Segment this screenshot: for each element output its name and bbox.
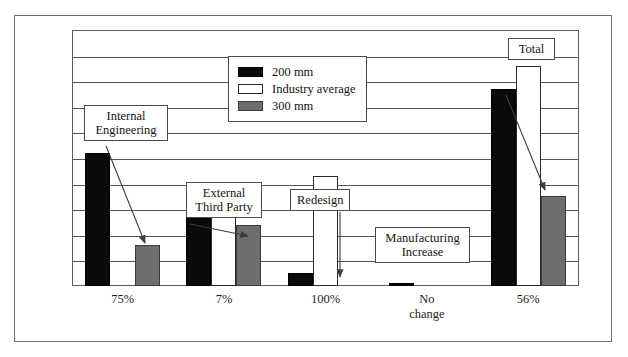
x-tick-label: No change [376, 292, 477, 322]
legend-item-industry-average: Industry average [238, 81, 358, 97]
legend-item-300mm: 300 mm [238, 98, 358, 114]
white-swatch-icon [238, 84, 263, 94]
gray-swatch-icon [238, 101, 263, 111]
legend-item-200mm: 200 mm [238, 64, 358, 80]
x-axis-tick-labels: 75%7%100%No change56% [72, 292, 579, 340]
bar-200-mm-75% [85, 153, 110, 286]
bar-300-mm-7% [236, 225, 261, 286]
x-tick-label: 75% [72, 292, 173, 307]
black-swatch-icon [238, 67, 263, 77]
chart-figure: 75%7%100%No change56% 200 mm Industry av… [0, 0, 628, 357]
chart-legend: 200 mm Industry average 300 mm [228, 56, 367, 122]
bar-industry-average-7% [211, 207, 236, 286]
legend-label-200mm: 200 mm [272, 65, 313, 80]
bar-200-mm-56% [491, 89, 516, 286]
x-tick-label: 7% [173, 292, 274, 307]
bar-200-mm-7% [186, 217, 211, 286]
bar-group [72, 30, 173, 286]
callout-external-third-party: External Third Party [186, 182, 262, 218]
legend-label-300mm: 300 mm [272, 99, 313, 114]
bar-300-mm-75% [135, 245, 160, 286]
callout-total: Total [508, 38, 555, 60]
bar-group [478, 30, 579, 286]
callout-internal-engineering: Internal Engineering [84, 105, 168, 141]
bar-200-mm-100% [288, 273, 313, 286]
x-tick-label: 100% [275, 292, 376, 307]
bar-200-mm-No-change [389, 283, 414, 286]
bar-industry-average-56% [516, 66, 541, 286]
callout-manufacturing-increase: Manufacturing Increase [375, 227, 470, 263]
legend-label-industry-average: Industry average [272, 82, 356, 97]
callout-redesign: Redesign [290, 189, 350, 211]
x-tick-label: 56% [478, 292, 579, 307]
bar-300-mm-56% [541, 196, 566, 286]
